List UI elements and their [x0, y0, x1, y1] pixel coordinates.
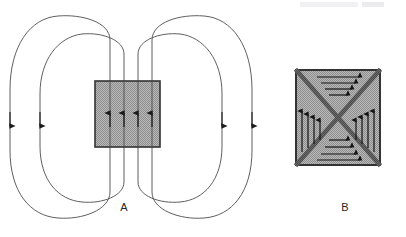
panel-b-label: B	[341, 201, 348, 213]
scan-watermark	[300, 2, 384, 7]
magnet-body	[95, 81, 160, 147]
figure-canvas: A	[0, 0, 406, 237]
figure-container: A	[0, 0, 406, 237]
panel-a-label: A	[120, 201, 128, 213]
